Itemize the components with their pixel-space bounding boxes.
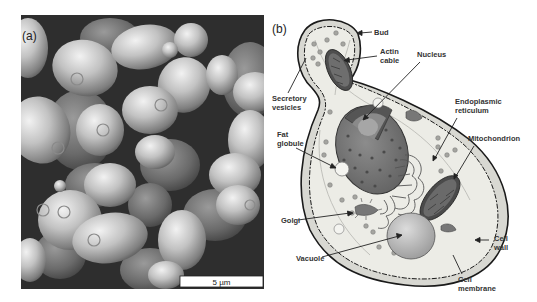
yeast-cell-diagram (298, 20, 508, 286)
vacuole (387, 213, 435, 259)
label-vacuole: Vacuole (296, 254, 324, 263)
label-membrane-line1: Cell (458, 275, 472, 284)
label-mitochondrion: Mitochondrion (468, 134, 520, 143)
label-secretory-line1: Secretory (272, 94, 307, 103)
scale-bar-label: 5 µm (213, 278, 231, 287)
label-er-line1: Endoplasmic (455, 97, 502, 106)
label-wall-line2: wall (493, 243, 508, 252)
label-fat-line2: globule (277, 139, 304, 148)
label-golgi: Golgi (281, 216, 300, 225)
panel-b-label: (b) (272, 22, 287, 36)
label-fat-line1: Fat (277, 130, 289, 139)
label-actin-line2: cable (380, 56, 399, 65)
label-bud: Bud (374, 28, 389, 37)
label-actin-line1: Actin (380, 47, 399, 56)
label-secretory-line2: vesicles (272, 103, 301, 112)
label-er-line2: reticulum (455, 106, 489, 115)
sem-micrograph: 5 µm (0, 15, 278, 292)
label-nucleus: Nucleus (417, 50, 446, 59)
label-wall-line1: Cell (494, 234, 508, 243)
figure: 5 µm (a) (b) (0, 0, 537, 302)
label-membrane-line2: membrane (458, 284, 496, 293)
panel-a-label: (a) (22, 29, 37, 43)
scale-bar: 5 µm (180, 276, 263, 287)
